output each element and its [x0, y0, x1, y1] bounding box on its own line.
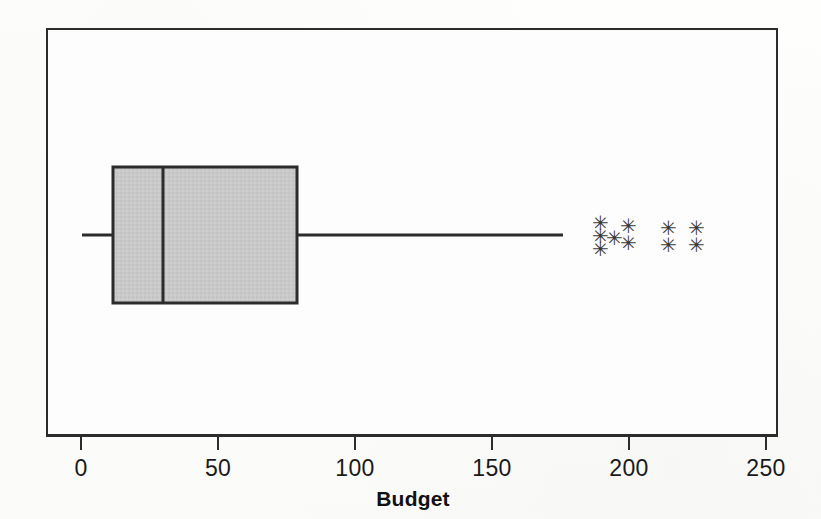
- tick-label-100: 100: [335, 455, 374, 482]
- outlier-marker: ✳: [688, 235, 705, 255]
- x-axis-ticks: [81, 436, 766, 450]
- outlier-marker: ✳: [660, 235, 677, 255]
- tick-label-250: 250: [746, 455, 785, 482]
- tick-label-0: 0: [74, 455, 87, 482]
- interquartile-box: [113, 167, 297, 303]
- tick-label-150: 150: [472, 455, 511, 482]
- boxplot-figure: ✳ ✳ ✳ ✳ ✳ ✳ ✳ ✳ ✳ ✳ 0 50 100 150 200 250…: [0, 0, 821, 519]
- tick-label-200: 200: [609, 455, 648, 482]
- outlier-marker: ✳: [620, 233, 637, 253]
- boxplot-canvas: [0, 0, 821, 519]
- tick-label-50: 50: [205, 455, 231, 482]
- x-axis-title: Budget: [376, 487, 450, 511]
